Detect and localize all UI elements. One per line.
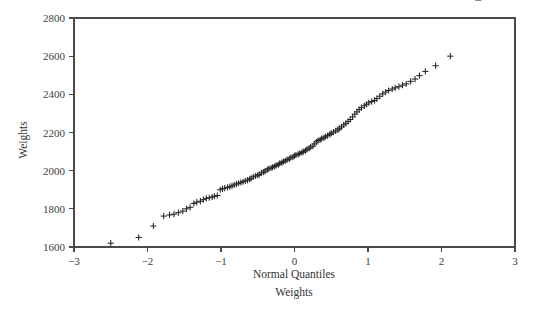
data-point bbox=[136, 234, 142, 240]
x-tick-label: −3 bbox=[68, 255, 80, 267]
data-point bbox=[389, 86, 395, 92]
x-tick-label: 2 bbox=[439, 255, 445, 267]
data-point bbox=[206, 195, 212, 201]
data-point bbox=[108, 240, 114, 246]
data-point bbox=[194, 199, 200, 205]
data-point bbox=[200, 197, 206, 203]
data-point bbox=[392, 85, 398, 91]
y-tick-label: 2600 bbox=[43, 50, 66, 62]
plot-frame bbox=[74, 18, 515, 247]
x-tick-label: −1 bbox=[215, 255, 227, 267]
data-point bbox=[197, 198, 203, 204]
data-point bbox=[203, 195, 209, 201]
data-point bbox=[166, 212, 172, 218]
data-point-series bbox=[108, 0, 482, 246]
x-axis-ticks: −3−2−10123 bbox=[68, 247, 518, 267]
y-tick-label: 2200 bbox=[43, 127, 66, 139]
data-point bbox=[191, 200, 197, 206]
y-axis-ticks: 1600180020002200240026002800 bbox=[43, 12, 74, 253]
data-point bbox=[422, 68, 428, 74]
data-point bbox=[396, 84, 402, 90]
y-tick-label: 1600 bbox=[43, 241, 66, 253]
data-point bbox=[171, 211, 177, 217]
y-tick-label: 2800 bbox=[43, 12, 66, 24]
data-point bbox=[187, 204, 193, 210]
x-tick-label: 1 bbox=[365, 255, 371, 267]
x-tick-label: 0 bbox=[292, 255, 298, 267]
data-point bbox=[433, 63, 439, 69]
x-tick-label: 3 bbox=[512, 255, 518, 267]
qq-plot-figure: 1600180020002200240026002800 −3−2−10123 … bbox=[0, 0, 539, 320]
x-axis-title: Normal Quantiles bbox=[253, 268, 336, 280]
data-point bbox=[416, 73, 422, 79]
x-tick-label: −2 bbox=[142, 255, 154, 267]
data-point bbox=[385, 87, 391, 93]
data-point bbox=[399, 82, 405, 88]
data-point bbox=[447, 53, 453, 59]
x-axis-subtitle: Weights bbox=[275, 286, 313, 299]
y-axis-title: Weights bbox=[17, 121, 30, 159]
y-tick-label: 2400 bbox=[43, 88, 66, 100]
plot-canvas: 1600180020002200240026002800 −3−2−10123 … bbox=[0, 0, 539, 320]
data-point bbox=[161, 213, 167, 219]
data-point bbox=[214, 192, 220, 198]
data-point bbox=[150, 223, 156, 229]
data-point bbox=[175, 210, 181, 216]
y-tick-label: 1800 bbox=[43, 203, 66, 215]
y-tick-label: 2000 bbox=[43, 165, 66, 177]
